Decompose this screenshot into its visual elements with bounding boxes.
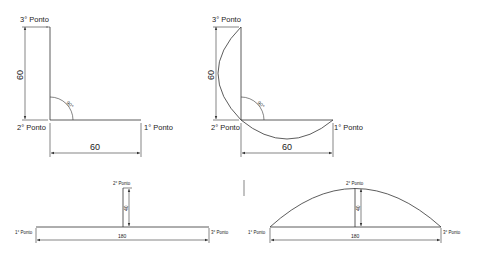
point-2-label: 2° Ponto (17, 123, 46, 132)
point-1-label: 1° Ponto (15, 230, 33, 235)
dim-vertical-label: 60 (206, 70, 216, 80)
point-1-label: 1° Ponto (248, 230, 266, 235)
point-2-label: 2° Ponto (346, 181, 364, 186)
point-3-label: 3° Ponto (20, 15, 49, 24)
point-2-label: 2° Ponto (211, 123, 240, 132)
point-3-label: 3° Ponto (443, 230, 461, 235)
dim-width-label: 180 (351, 233, 360, 239)
dim-horizontal-label: 60 (282, 142, 292, 152)
point-3-label: 3° Ponto (211, 230, 229, 235)
dim-vertical-label: 60 (15, 70, 25, 80)
point-2-label: 2° Ponto (113, 181, 131, 186)
diagram-top-left: 90° 3° Ponto 2° Ponto 1° Ponto 60 60 (15, 15, 173, 157)
diagram-top-right: 90° 3° Ponto 2° Ponto 1° Ponto 60 60 (206, 15, 363, 157)
point-1-label: 1° Ponto (144, 123, 173, 132)
point-3-label: 3° Ponto (212, 15, 241, 24)
dim-horizontal-label: 60 (90, 142, 100, 152)
diagram-bottom-right: 2° Ponto 1° Ponto 3° Ponto 40 180 (244, 180, 461, 243)
angle-label: 90° (65, 99, 75, 109)
drawing-canvas: 90° 3° Ponto 2° Ponto 1° Ponto 60 60 90°… (0, 0, 480, 258)
dim-height-label: 40 (123, 205, 129, 211)
dim-height-label: 40 (355, 205, 361, 211)
point-1-label: 1° Ponto (334, 123, 363, 132)
diagram-bottom-left: 2° Ponto 1° Ponto 3° Ponto 40 180 (15, 181, 229, 243)
dim-width-label: 180 (118, 233, 127, 239)
angle-label: 90° (256, 99, 266, 109)
